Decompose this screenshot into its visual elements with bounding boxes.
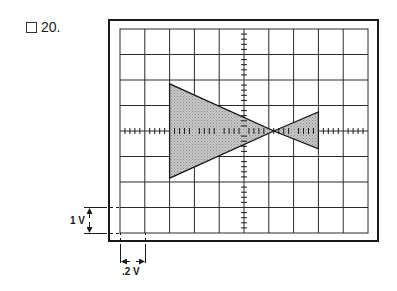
oscilloscope-diagram: 1 V .2 V [0,0,397,291]
horizontal-scale-label: .2 V [122,266,140,277]
vertical-scale-indicator [84,208,120,234]
horizontal-scale-indicator [121,233,146,263]
vertical-scale-label: 1 V [70,215,85,226]
